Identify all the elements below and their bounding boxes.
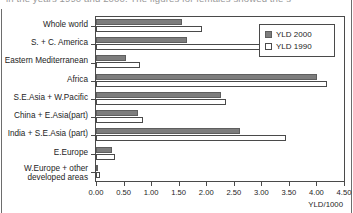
x-axis-tick-label: 0.50 (116, 188, 131, 197)
bar-yld-2000 (96, 165, 98, 171)
legend-swatch-open-icon (265, 43, 272, 50)
x-axis-tick (96, 182, 97, 186)
category-label: India + S.E.Asia (part) (8, 129, 88, 138)
x-axis-tick (261, 182, 262, 186)
category-label: Whole world (43, 20, 88, 29)
bar-yld-1990 (96, 44, 263, 50)
x-axis-tick (124, 182, 125, 186)
legend-item-yld-2000: YLD 2000 (265, 28, 330, 40)
category-label: W.Europe + other developed areas (0, 164, 88, 183)
y-axis-tick (91, 172, 95, 173)
bar-yld-2000 (96, 55, 126, 61)
x-axis-tick-label: 4.50 (337, 188, 352, 197)
x-axis-tick (316, 182, 317, 186)
bar-yld-2000 (96, 37, 187, 43)
x-axis-tick (234, 182, 235, 186)
x-axis-tick (151, 182, 152, 186)
legend-label-yld-1990: YLD 1990 (276, 42, 312, 51)
x-axis-tick (289, 182, 290, 186)
bar-row (96, 145, 345, 163)
x-axis-tick-label: 3.00 (254, 188, 269, 197)
y-axis-tick (91, 63, 95, 64)
chart-legend: YLD 2000 YLD 1990 (259, 24, 335, 57)
x-axis-tick-label: 0.00 (89, 188, 104, 197)
x-axis-tick (179, 182, 180, 186)
y-axis-tick (91, 99, 95, 100)
bar-yld-1990 (96, 172, 100, 178)
bar-yld-2000 (96, 92, 221, 98)
category-label: S. + C. America (31, 38, 88, 47)
bar-yld-2000 (96, 128, 240, 134)
bar-row (96, 72, 345, 90)
bar-row (96, 108, 345, 126)
x-axis-tick (206, 182, 207, 186)
bar-row (96, 90, 345, 108)
legend-swatch-filled-icon (265, 31, 272, 38)
x-axis-tick-label: 2.00 (199, 188, 214, 197)
x-axis-tick-label: 3.50 (281, 188, 296, 197)
category-axis-labels: Whole worldS. + C. AmericaEastern Medite… (0, 17, 92, 181)
bar-yld-1990 (96, 99, 226, 105)
bar-row (96, 163, 345, 181)
x-axis-tick (344, 182, 345, 186)
y-axis-tick (91, 154, 95, 155)
x-axis-tick-label: 2.50 (226, 188, 241, 197)
y-axis-tick (91, 117, 95, 118)
bar-yld-1990 (96, 154, 115, 160)
bar-yld-2000 (96, 74, 317, 80)
bar-yld-2000 (96, 110, 138, 116)
bar-yld-2000 (96, 147, 112, 153)
y-axis-tick (91, 81, 95, 82)
chart-page: in the years 1990 and 2000. The figures … (0, 0, 353, 213)
x-axis-tick-label: 1.50 (171, 188, 186, 197)
y-axis-tick (91, 44, 95, 45)
bar-yld-1990 (96, 62, 140, 68)
category-label: Africa (67, 75, 88, 84)
bar-yld-1990 (96, 135, 286, 141)
category-label: S.E.Asia + W.Pacific (14, 93, 88, 102)
bar-yld-1990 (96, 26, 202, 32)
x-axis-tick-label: 4.00 (309, 188, 324, 197)
bar-row (96, 126, 345, 144)
category-label: E.Europe (54, 148, 88, 157)
clipped-caption-text: in the years 1990 and 2000. The figures … (6, 0, 353, 7)
y-axis-tick (91, 135, 95, 136)
x-axis-title: YLD/1000 (308, 200, 343, 209)
category-label: Eastern Mediterranean (5, 56, 88, 65)
x-axis-tick-label: 1.00 (144, 188, 159, 197)
y-axis-tick (91, 26, 95, 27)
bar-chart: Whole worldS. + C. AmericaEastern Medite… (0, 12, 353, 213)
legend-label-yld-2000: YLD 2000 (276, 30, 312, 39)
legend-item-yld-1990: YLD 1990 (265, 40, 330, 52)
bar-yld-2000 (96, 19, 182, 25)
category-label: China + E.Asia(part) (14, 111, 88, 120)
bar-yld-1990 (96, 81, 327, 87)
bar-yld-1990 (96, 117, 143, 123)
